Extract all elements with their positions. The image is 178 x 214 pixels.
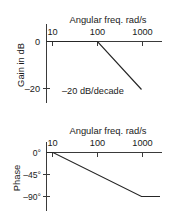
- phase-plot-panel: 10 100 1000 0° –45° –90° Angular freq. r…: [0, 107, 178, 214]
- phase-asymptote-line: [47, 153, 161, 197]
- phase-xtick-label-100: 100: [90, 138, 105, 148]
- gain-ytick-label-minus20: –20: [25, 84, 40, 94]
- phase-xtick-label-10: 10: [47, 138, 57, 148]
- gain-x-axis-title: Angular freq. rad/s: [69, 14, 146, 25]
- gain-plot-svg: 10 100 1000 0 –20 Angular freq. rad/s Ga…: [0, 0, 178, 107]
- phase-ytick-label-0: 0°: [33, 148, 41, 158]
- phase-y-axis-title: Phase: [11, 165, 22, 192]
- bode-plot-figure: 10 100 1000 0 –20 Angular freq. rad/s Ga…: [0, 0, 178, 214]
- phase-ytick-label-minus45: –45°: [23, 170, 41, 180]
- gain-xtick-label-10: 10: [47, 27, 57, 37]
- phase-xtick-label-1000: 1000: [132, 138, 152, 148]
- gain-xtick-label-1000: 1000: [132, 27, 152, 37]
- gain-xtick-label-100: 100: [90, 27, 105, 37]
- gain-ytick-label-0: 0: [35, 37, 40, 47]
- phase-plot-svg: 10 100 1000 0° –45° –90° Angular freq. r…: [0, 107, 178, 214]
- gain-asymptote-line: [47, 42, 142, 90]
- gain-plot-panel: 10 100 1000 0 –20 Angular freq. rad/s Ga…: [0, 0, 178, 107]
- phase-ytick-label-minus90: –90°: [23, 192, 41, 202]
- gain-y-axis-title: Gain in dB: [15, 43, 26, 87]
- phase-x-axis-title: Angular freq. rad/s: [69, 125, 146, 136]
- gain-slope-annotation: –20 dB/decade: [62, 86, 124, 96]
